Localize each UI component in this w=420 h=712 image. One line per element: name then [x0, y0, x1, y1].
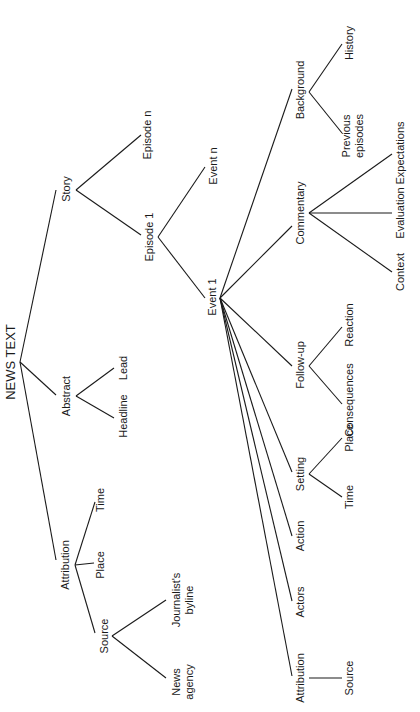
node-attr-place: Place	[94, 551, 106, 579]
node-context: Context	[394, 253, 406, 291]
node-actors: Actors	[294, 586, 306, 618]
node-journalists-byline: Journalist'sbyline	[170, 572, 195, 627]
node-headline: Headline	[117, 394, 129, 437]
node-lead: Lead	[117, 356, 129, 380]
node-consequences: Consequences	[343, 363, 355, 437]
news-agency-line2: agency	[183, 664, 195, 700]
journalist-line2: byline	[183, 586, 195, 615]
news-schema-tree: NEWS TEXT Attribution Place Time Source …	[0, 0, 420, 712]
node-reaction: Reaction	[343, 303, 355, 346]
node-episode-n: Episode n	[141, 111, 153, 160]
node-ev-attribution: Attribution	[294, 653, 306, 703]
node-previous-episodes: Previousepisodes	[340, 113, 365, 158]
node-expectations: Expectations	[394, 121, 406, 184]
node-attr-source: Source	[98, 619, 110, 654]
node-commentary: Commentary	[294, 181, 306, 244]
node-background: Background	[294, 61, 306, 120]
node-event-n: Event n	[207, 147, 219, 184]
node-abstract: Abstract	[60, 376, 72, 416]
node-attribution: Attribution	[59, 540, 71, 590]
news-agency-line1: News	[170, 668, 182, 696]
node-news-text: NEWS TEXT	[3, 324, 18, 400]
tree-edges	[20, 44, 392, 678]
node-ev-source: Source	[343, 661, 355, 696]
journalist-line1: Journalist's	[170, 572, 182, 627]
previous-line1: Previous	[340, 114, 352, 157]
previous-line2: episodes	[353, 113, 365, 158]
node-action: Action	[294, 521, 306, 552]
node-evaluation: Evaluation	[394, 187, 406, 238]
node-history: History	[343, 25, 355, 60]
node-event-1: Event 1	[206, 278, 218, 315]
node-set-time: Time	[343, 485, 355, 509]
node-setting: Setting	[294, 457, 306, 491]
node-story: Story	[60, 176, 72, 202]
node-episode-1: Episode 1	[143, 213, 155, 262]
node-news-agency: Newsagency	[170, 664, 195, 700]
tree-labels: NEWS TEXT Attribution Place Time Source …	[3, 25, 406, 702]
node-attr-time: Time	[94, 488, 106, 512]
node-followup: Follow-up	[294, 341, 306, 389]
